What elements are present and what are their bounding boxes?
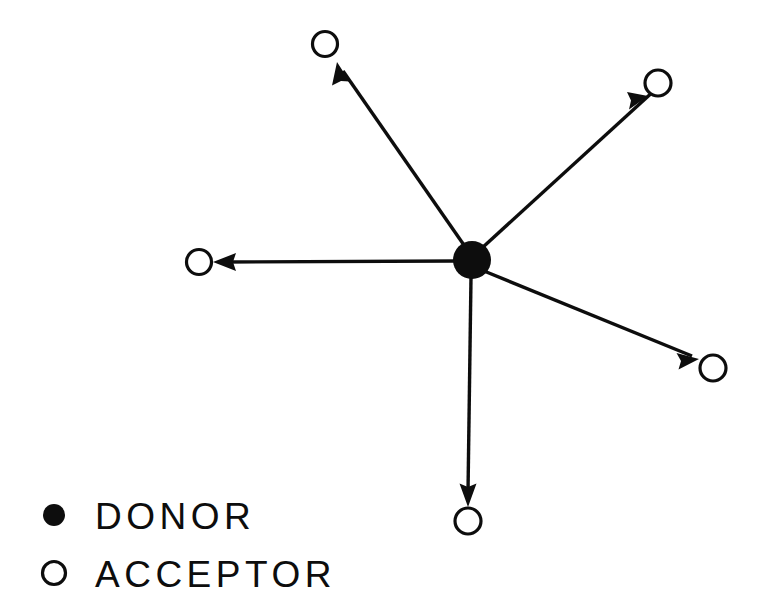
acceptor-node-group — [187, 32, 727, 535]
donor-node-center — [453, 241, 491, 279]
arrow-to-left — [213, 253, 456, 271]
figure-root: DONOR ACCEPTOR — [0, 0, 761, 605]
arrowhead — [213, 253, 236, 271]
acceptor-node-left — [187, 250, 212, 275]
legend-acceptor-marker-icon — [43, 562, 66, 585]
arrow-shaft — [482, 89, 656, 248]
arrow-shaft — [225, 261, 456, 262]
acceptor-node-bottom-right — [700, 355, 726, 381]
arrow-to-top-left — [332, 62, 466, 248]
arrow-shaft — [468, 277, 471, 492]
arrow-shaft — [343, 71, 466, 248]
arrow-to-top-right — [482, 89, 656, 248]
legend: DONOR ACCEPTOR — [43, 496, 336, 595]
acceptor-node-top-left — [313, 32, 338, 57]
legend-item-donor: DONOR — [43, 496, 255, 537]
arrow-to-bottom-right — [484, 271, 699, 370]
arrow-group — [213, 62, 699, 507]
legend-item-acceptor: ACCEPTOR — [43, 554, 336, 595]
arrowhead — [460, 484, 477, 508]
legend-donor-label: DONOR — [95, 496, 255, 537]
acceptor-node-top-right — [645, 70, 671, 96]
arrow-to-bottom — [460, 277, 477, 507]
acceptor-node-bottom — [455, 508, 481, 534]
arrow-shaft — [484, 271, 692, 356]
legend-donor-marker-icon — [43, 504, 65, 526]
donor-acceptor-diagram: DONOR ACCEPTOR — [0, 0, 761, 605]
legend-acceptor-label: ACCEPTOR — [95, 554, 336, 595]
